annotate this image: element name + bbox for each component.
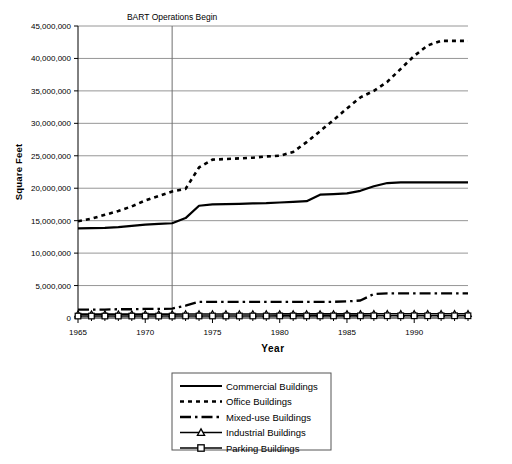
marker-square [277, 313, 283, 319]
x-tick-label: 1975 [204, 328, 222, 337]
marker-square [129, 313, 135, 319]
marker-square [465, 313, 471, 319]
marker-square [425, 313, 431, 319]
y-tick-label: 30,000,000 [31, 119, 72, 128]
y-tick-label: 25,000,000 [31, 152, 72, 161]
marker-square [102, 313, 108, 319]
x-tick-label: 1970 [136, 328, 154, 337]
marker-square [250, 313, 256, 319]
marker-square [290, 313, 296, 319]
marker-square [156, 313, 162, 319]
legend-label: Industrial Buildings [226, 427, 306, 438]
x-tick-label: 1965 [69, 328, 87, 337]
y-tick-label: 20,000,000 [31, 184, 72, 193]
marker-square [358, 313, 364, 319]
y-tick-label: 15,000,000 [31, 217, 72, 226]
y-tick-label: 5,000,000 [35, 282, 71, 291]
marker-square [304, 313, 310, 319]
marker-square [263, 313, 269, 319]
x-tick-label: 1985 [338, 328, 356, 337]
marker-square [223, 313, 229, 319]
marker-square [411, 313, 417, 319]
marker-square [398, 313, 404, 319]
chart-legend: Commercial BuildingsOffice BuildingsMixe… [172, 373, 331, 454]
marker-square [438, 313, 444, 319]
legend-label: Parking Buildings [226, 443, 300, 454]
y-tick-label: 45,000,000 [31, 22, 72, 31]
marker-square [237, 313, 243, 319]
y-tick-label: 10,000,000 [31, 249, 72, 258]
legend-label: Mixed-use Buildings [226, 412, 311, 423]
chart-container: 05,000,00010,000,00015,000,00020,000,000… [0, 0, 512, 464]
y-tick-label: 40,000,000 [31, 54, 72, 63]
x-axis-title: Year [261, 343, 285, 354]
marker-square [344, 313, 350, 319]
marker-square [75, 313, 81, 319]
bart-annotation-label: BART Operations Begin [127, 12, 218, 22]
marker-square [183, 313, 189, 319]
marker-square [116, 313, 122, 319]
y-axis-title: Square Feet [13, 143, 24, 200]
square-feet-line-chart: 05,000,00010,000,00015,000,00020,000,000… [0, 0, 512, 464]
marker-square [89, 313, 95, 319]
y-tick-label: 0 [67, 314, 72, 323]
marker-square [142, 313, 148, 319]
legend-label: Office Buildings [226, 396, 292, 407]
marker-square [196, 313, 202, 319]
x-tick-label: 1990 [405, 328, 423, 337]
legend-marker-square [198, 445, 204, 451]
x-tick-label: 1980 [271, 328, 289, 337]
y-tick-label: 35,000,000 [31, 87, 72, 96]
marker-square [371, 313, 377, 319]
marker-square [331, 313, 337, 319]
marker-square [385, 313, 391, 319]
marker-square [169, 313, 175, 319]
legend-label: Commercial Buildings [226, 381, 318, 392]
marker-square [317, 313, 323, 319]
marker-square [210, 313, 216, 319]
marker-square [452, 313, 458, 319]
